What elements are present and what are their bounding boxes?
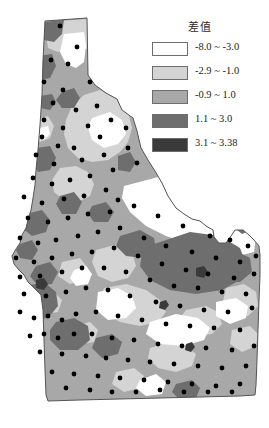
legend-label-1: -8.0 ~ -3.0 [195, 41, 239, 52]
legend: 差值 -8.0 ~ -3.0 -2.9 ~ -1.0 -0.9 ~ 1.0 1.… [150, 18, 269, 170]
legend-swatch-5 [152, 138, 188, 152]
legend-label-5: 3.1 ~ 3.38 [195, 137, 237, 148]
legend-swatch-1 [152, 42, 188, 56]
legend-label-2: -2.9 ~ -1.0 [195, 65, 239, 76]
legend-title: 差值 [188, 18, 212, 34]
legend-swatch-4 [152, 114, 188, 128]
legend-label-4: 1.1 ~ 3.0 [195, 113, 232, 124]
legend-label-3: -0.9 ~ 1.0 [195, 89, 236, 100]
map-figure: 差值 -8.0 ~ -3.0 -2.9 ~ -1.0 -0.9 ~ 1.0 1.… [0, 0, 269, 428]
legend-swatch-3 [152, 90, 188, 104]
legend-swatch-2 [152, 66, 188, 80]
